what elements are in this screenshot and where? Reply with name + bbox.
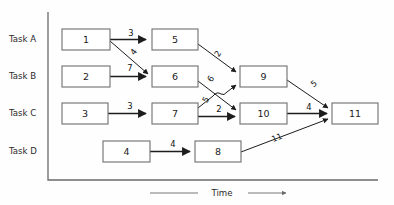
edge-weight-1-to-5: 3	[128, 28, 133, 38]
node-11-label: 11	[349, 108, 361, 119]
row-label-task-d: Task D	[8, 146, 37, 156]
node-5[interactable]: 5	[152, 29, 198, 50]
row-labels: Task A Task B Task C Task D	[8, 34, 37, 156]
edge-weight-2-to-6: 7	[127, 63, 132, 73]
node-7-label: 7	[172, 108, 178, 119]
time-axis-caption: Time	[150, 188, 286, 198]
row-label-task-a: Task A	[8, 34, 36, 44]
time-axis-label: Time	[210, 188, 232, 198]
edge-weight-4-to-8: 4	[170, 139, 175, 149]
node-9-label: 9	[260, 71, 266, 82]
edge-weight-1-to-6: 4	[128, 47, 139, 57]
edge-weight-7-to-10: 2	[216, 104, 221, 114]
node-8[interactable]: 8	[195, 141, 241, 162]
row-label-task-b: Task B	[8, 71, 36, 81]
node-2-label: 2	[83, 71, 89, 82]
row-label-task-c: Task C	[8, 108, 36, 118]
node-7[interactable]: 7	[152, 103, 198, 124]
node-4[interactable]: 4	[103, 141, 150, 162]
node-2[interactable]: 2	[62, 66, 110, 87]
node-4-label: 4	[123, 146, 129, 157]
edge-weight-3-to-7: 3	[127, 101, 132, 111]
node-5-label: 5	[172, 34, 178, 45]
nodes-layer: 1 5 2 6 9 3	[62, 29, 378, 162]
node-1-label: 1	[83, 34, 89, 45]
node-3[interactable]: 3	[62, 103, 108, 124]
edge-weight-5-to-9: 2	[212, 49, 223, 59]
edge-weight-10-to-11: 4	[306, 102, 311, 112]
edge-weight-9-to-11: 5	[309, 78, 319, 89]
node-10-label: 10	[257, 108, 269, 119]
diagram-canvas: Task A Task B Task C Task D	[0, 0, 394, 205]
task-network-svg: Task A Task B Task C Task D	[0, 0, 394, 205]
edge-5-to-9	[198, 44, 236, 72]
node-6[interactable]: 6	[152, 66, 198, 87]
node-6-label: 6	[172, 71, 178, 82]
edge-weight-6-to-10: 6	[205, 74, 216, 84]
node-10[interactable]: 10	[240, 103, 287, 124]
node-8-label: 8	[215, 146, 221, 157]
edge-weight-7-to-9: 5	[200, 95, 211, 105]
node-3-label: 3	[82, 108, 88, 119]
node-1[interactable]: 1	[62, 29, 110, 50]
node-9[interactable]: 9	[240, 66, 287, 87]
edge-weight-8-to-11: 11	[270, 131, 284, 144]
node-11[interactable]: 11	[332, 103, 378, 124]
